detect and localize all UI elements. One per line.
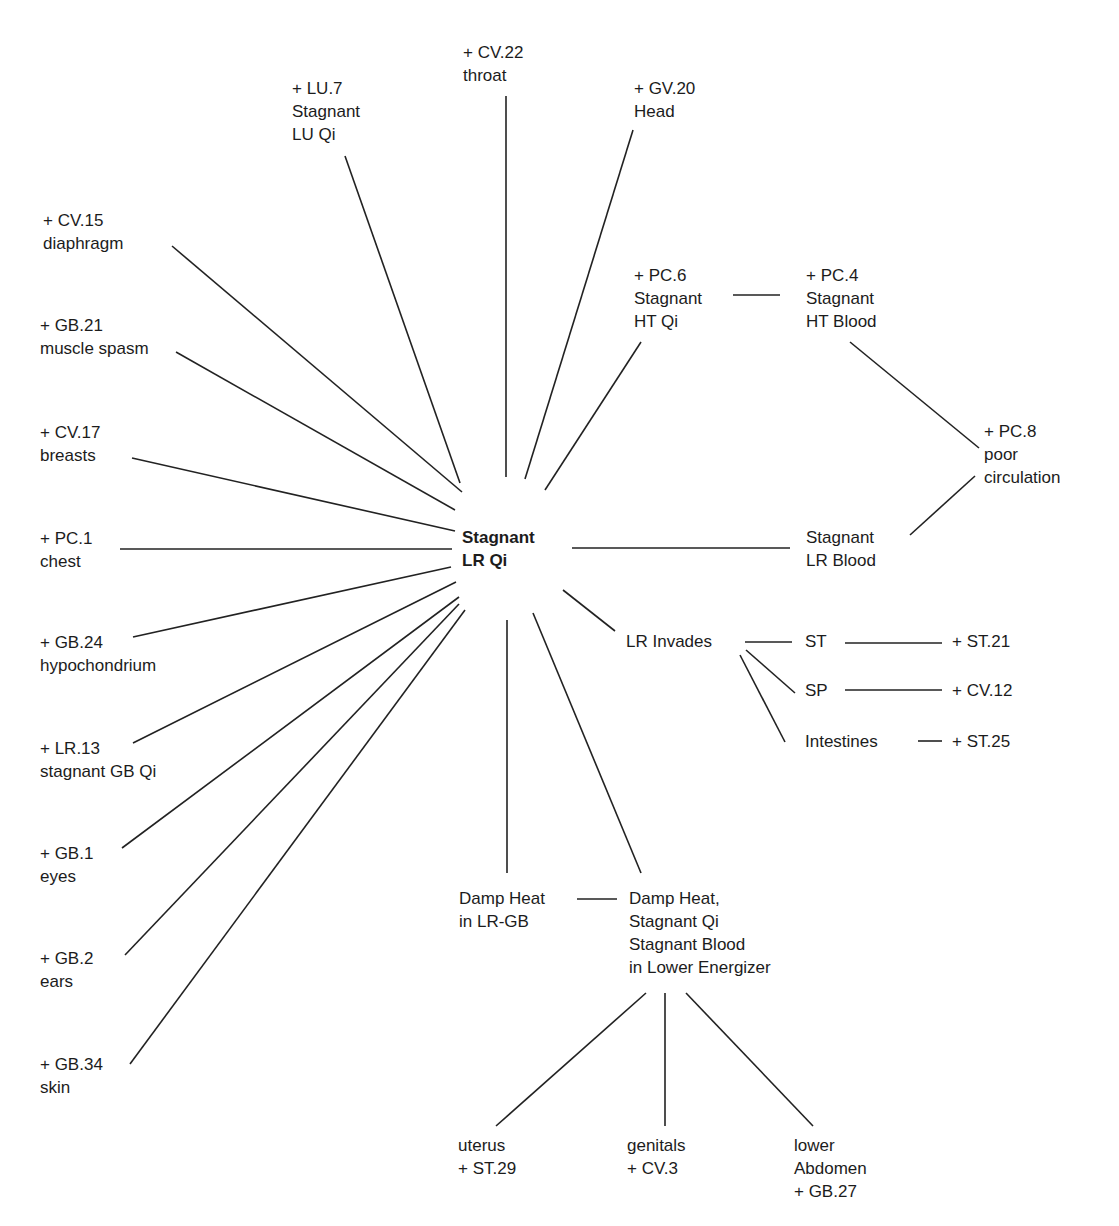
node-gb1-label: eyes bbox=[40, 865, 93, 888]
node-lr-blood-line2: LR Blood bbox=[806, 549, 876, 572]
node-cv15-label: diaphragm bbox=[43, 232, 123, 255]
edge-abdomen bbox=[686, 993, 813, 1126]
node-cv15: + CV.15 diaphragm bbox=[43, 209, 123, 255]
node-genitals: genitals + CV.3 bbox=[627, 1134, 686, 1180]
node-abdomen-point: + GB.27 bbox=[794, 1180, 867, 1203]
node-lu7-point: + LU.7 bbox=[292, 77, 360, 100]
node-uterus-label: uterus bbox=[458, 1134, 516, 1157]
edge-gb34 bbox=[130, 610, 465, 1064]
edge-gb21 bbox=[176, 352, 455, 510]
node-uterus-point: + ST.29 bbox=[458, 1157, 516, 1180]
edge-lu7 bbox=[345, 156, 460, 483]
edge-invades-sp bbox=[746, 650, 795, 693]
node-uterus: uterus + ST.29 bbox=[458, 1134, 516, 1180]
node-pc1-point: + PC.1 bbox=[40, 527, 92, 550]
node-cv22-point: + CV.22 bbox=[463, 41, 523, 64]
node-dhle-line1: Damp Heat, bbox=[629, 887, 771, 910]
connector-lines bbox=[0, 0, 1119, 1226]
edge-gb2 bbox=[125, 604, 459, 955]
edge-pc4-pc8 bbox=[850, 342, 979, 448]
node-gb1-point: + GB.1 bbox=[40, 842, 93, 865]
node-dhle-line2: Stagnant Qi bbox=[629, 910, 771, 933]
node-dhle-line3: Stagnant Blood bbox=[629, 933, 771, 956]
edge-lrinvades bbox=[563, 590, 615, 631]
edge-uterus bbox=[496, 993, 646, 1126]
node-lu7: + LU.7 Stagnant LU Qi bbox=[292, 77, 360, 146]
node-cv15-point: + CV.15 bbox=[43, 209, 123, 232]
edge-gb24 bbox=[133, 567, 451, 637]
node-gb2-point: + GB.2 bbox=[40, 947, 93, 970]
node-lr13-point: + LR.13 bbox=[40, 737, 156, 760]
node-lr13: + LR.13 stagnant GB Qi bbox=[40, 737, 156, 783]
node-pc4: + PC.4 Stagnant HT Blood bbox=[806, 264, 877, 333]
node-gb2-label: ears bbox=[40, 970, 93, 993]
node-lr13-label: stagnant GB Qi bbox=[40, 760, 156, 783]
node-lr-blood-line1: Stagnant bbox=[806, 526, 876, 549]
node-pc6-label1: Stagnant bbox=[634, 287, 702, 310]
node-cv22: + CV.22 throat bbox=[463, 41, 523, 87]
node-sp: SP bbox=[805, 679, 828, 702]
node-pc8-point: + PC.8 bbox=[984, 420, 1061, 443]
node-cv17: + CV.17 breasts bbox=[40, 421, 100, 467]
node-gb21-point: + GB.21 bbox=[40, 314, 149, 337]
node-abdomen-line2: Abdomen bbox=[794, 1157, 867, 1180]
hub-line1: Stagnant bbox=[462, 526, 535, 549]
node-damp-heat-lr-gb-line2: in LR-GB bbox=[459, 910, 545, 933]
node-st: ST bbox=[805, 630, 827, 653]
edge-lrblood-pc8 bbox=[910, 476, 975, 535]
node-pc8-label1: poor bbox=[984, 443, 1061, 466]
node-damp-heat-lr-gb: Damp Heat in LR-GB bbox=[459, 887, 545, 933]
node-intestines-label: Intestines bbox=[805, 730, 878, 753]
node-gb21-label: muscle spasm bbox=[40, 337, 149, 360]
edge-cv15 bbox=[172, 246, 462, 492]
node-dhle-line4: in Lower Energizer bbox=[629, 956, 771, 979]
node-pc8: + PC.8 poor circulation bbox=[984, 420, 1061, 489]
edge-pc6 bbox=[545, 342, 641, 490]
node-lr-invades: LR Invades bbox=[626, 630, 712, 653]
node-gb2: + GB.2 ears bbox=[40, 947, 93, 993]
node-cv17-point: + CV.17 bbox=[40, 421, 100, 444]
node-lr-blood: Stagnant LR Blood bbox=[806, 526, 876, 572]
node-gv20-label: Head bbox=[634, 100, 695, 123]
node-pc1-label: chest bbox=[40, 550, 92, 573]
node-st25-point: + ST.25 bbox=[952, 730, 1010, 753]
node-pc6-point: + PC.6 bbox=[634, 264, 702, 287]
hub-stagnant-lr-qi: Stagnant LR Qi bbox=[462, 526, 535, 572]
node-pc4-label1: Stagnant bbox=[806, 287, 877, 310]
node-gv20: + GV.20 Head bbox=[634, 77, 695, 123]
node-gb34-label: skin bbox=[40, 1076, 103, 1099]
node-lu7-label1: Stagnant bbox=[292, 100, 360, 123]
node-pc1: + PC.1 chest bbox=[40, 527, 92, 573]
node-gb34: + GB.34 skin bbox=[40, 1053, 103, 1099]
node-gv20-point: + GV.20 bbox=[634, 77, 695, 100]
node-genitals-point: + CV.3 bbox=[627, 1157, 686, 1180]
edge-gv20 bbox=[525, 130, 633, 479]
node-gb1: + GB.1 eyes bbox=[40, 842, 93, 888]
node-gb24: + GB.24 hypochondrium bbox=[40, 631, 156, 677]
node-pc4-point: + PC.4 bbox=[806, 264, 877, 287]
node-sp-label: SP bbox=[805, 679, 828, 702]
node-st21: + ST.21 bbox=[952, 630, 1010, 653]
node-cv12-point: + CV.12 bbox=[952, 679, 1012, 702]
node-cv12: + CV.12 bbox=[952, 679, 1012, 702]
hub-line2: LR Qi bbox=[462, 549, 535, 572]
edge-invades-intestines bbox=[740, 655, 785, 742]
edge-dhle bbox=[533, 613, 641, 873]
node-lower-abdomen: lower Abdomen + GB.27 bbox=[794, 1134, 867, 1203]
node-gb24-label: hypochondrium bbox=[40, 654, 156, 677]
node-st25: + ST.25 bbox=[952, 730, 1010, 753]
node-cv17-label: breasts bbox=[40, 444, 100, 467]
node-gb21: + GB.21 muscle spasm bbox=[40, 314, 149, 360]
lr-qi-stagnation-diagram: Stagnant LR Qi + CV.22 throat + LU.7 Sta… bbox=[0, 0, 1119, 1226]
node-pc6-label2: HT Qi bbox=[634, 310, 702, 333]
node-damp-heat-lr-gb-line1: Damp Heat bbox=[459, 887, 545, 910]
node-st21-point: + ST.21 bbox=[952, 630, 1010, 653]
node-gb34-point: + GB.34 bbox=[40, 1053, 103, 1076]
node-pc6: + PC.6 Stagnant HT Qi bbox=[634, 264, 702, 333]
edge-cv17 bbox=[132, 458, 455, 531]
node-abdomen-line1: lower bbox=[794, 1134, 867, 1157]
node-st-label: ST bbox=[805, 630, 827, 653]
node-cv22-label: throat bbox=[463, 64, 523, 87]
node-intestines: Intestines bbox=[805, 730, 878, 753]
node-genitals-label: genitals bbox=[627, 1134, 686, 1157]
